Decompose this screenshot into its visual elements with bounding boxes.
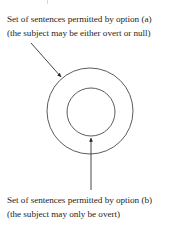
figure-canvas: Set of sentences permitted by option (a)… bbox=[0, 0, 186, 230]
inner-circle bbox=[67, 88, 115, 136]
outer-circle bbox=[47, 68, 133, 154]
caption-option-b: Set of sentences permitted by option (b)… bbox=[7, 194, 186, 221]
arrow-to-outer-circle bbox=[31, 43, 61, 77]
caption-option-b-line-2: (the subject may only be overt) bbox=[7, 208, 186, 222]
caption-option-b-line-1: Set of sentences permitted by option (b) bbox=[7, 194, 186, 208]
